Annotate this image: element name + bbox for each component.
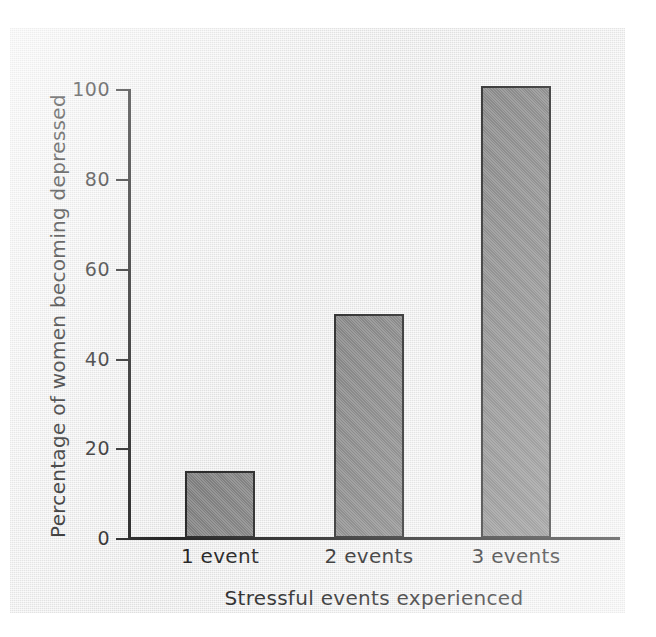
y-tick-mark-0 (116, 538, 128, 540)
y-tick-label-80: 80 (54, 168, 110, 190)
chart-page: Percentage of women becoming depressed 1… (0, 0, 656, 637)
bar-2-events[interactable] (334, 314, 404, 538)
y-tick-label-20: 20 (54, 437, 110, 459)
y-tick-mark-100 (116, 89, 128, 91)
y-tick-label-100: 100 (54, 78, 110, 100)
x-category-label-1-event: 1 event (140, 544, 300, 568)
scanned-paper-panel: Percentage of women becoming depressed 1… (10, 28, 625, 613)
bar-3-events[interactable] (481, 86, 551, 538)
y-tick-mark-60 (116, 269, 128, 271)
plot-area: Percentage of women becoming depressed 1… (10, 28, 625, 613)
y-tick-label-0: 0 (54, 527, 110, 549)
y-axis-line (128, 89, 131, 540)
y-tick-label-60: 60 (54, 258, 110, 280)
x-category-label-3-events: 3 events (436, 544, 596, 568)
y-tick-label-40: 40 (54, 348, 110, 370)
y-tick-mark-40 (116, 359, 128, 361)
x-category-label-2-events: 2 events (289, 544, 449, 568)
y-axis-title: Percentage of women becoming depressed (46, 98, 70, 538)
y-tick-mark-20 (116, 448, 128, 450)
x-axis-title: Stressful events experienced (128, 586, 620, 610)
bar-1-event[interactable] (185, 471, 255, 538)
y-tick-mark-80 (116, 179, 128, 181)
